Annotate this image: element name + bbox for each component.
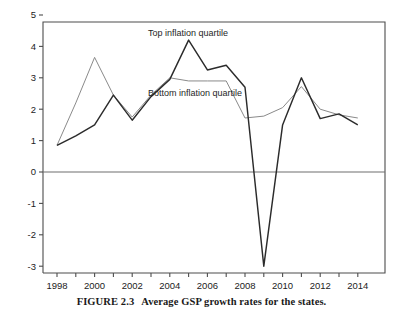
y-axis: 543210-1-2-3 xyxy=(28,9,43,271)
x-tick-label: 2014 xyxy=(347,280,368,290)
y-tick-label: 5 xyxy=(31,9,36,20)
y-tick-label: 3 xyxy=(31,72,36,83)
y-tick-label: 0 xyxy=(31,166,36,177)
x-tick-label: 2002 xyxy=(122,280,143,290)
x-tick-label: 2010 xyxy=(272,280,293,290)
series-line-top-inflation-quartile xyxy=(57,40,358,266)
figure-caption-text: Average GSP growth rates for the states. xyxy=(141,296,326,307)
figure-container: 543210-1-2-3 199820002002200420062008201… xyxy=(0,0,403,327)
y-tick-label: 1 xyxy=(31,135,36,146)
plot-frame xyxy=(43,22,385,273)
x-tick-label: 2004 xyxy=(159,280,180,290)
plot-frame-border xyxy=(43,22,385,273)
y-tick-label: 2 xyxy=(31,104,36,115)
figure-caption: FIGURE 2.3Average GSP growth rates for t… xyxy=(0,296,403,307)
y-tick-label: -3 xyxy=(28,261,36,272)
y-tick-label: -1 xyxy=(28,198,36,209)
x-tick-label: 2006 xyxy=(197,280,218,290)
annotation-top-inflation-quartile: Top inflation quartile xyxy=(148,28,228,38)
x-axis: 199820002002200420062008201020122014 xyxy=(46,273,368,290)
x-tick-label: 1998 xyxy=(46,280,67,290)
chart-plot-area: 543210-1-2-3 199820002002200420062008201… xyxy=(0,0,403,290)
annotation-bottom-inflation-quartile: Bottom inflation quartile xyxy=(148,88,242,98)
y-tick-label: 4 xyxy=(31,41,36,52)
x-tick-label: 2000 xyxy=(84,280,105,290)
x-tick-label: 2008 xyxy=(234,280,255,290)
gsp-growth-line-chart: 543210-1-2-3 199820002002200420062008201… xyxy=(0,0,403,290)
x-tick-label: 2012 xyxy=(310,280,331,290)
figure-number-label: FIGURE 2.3 xyxy=(77,296,135,307)
y-tick-label: -2 xyxy=(28,229,36,240)
